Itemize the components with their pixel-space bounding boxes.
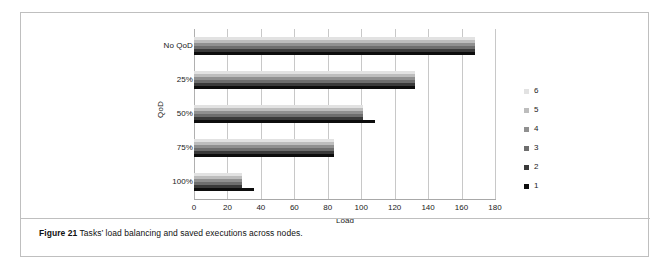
x-axis-tick-label: 100	[346, 203, 376, 212]
legend-swatch-icon	[524, 184, 529, 189]
bar-group	[194, 97, 495, 131]
legend-item[interactable]: 6	[524, 85, 538, 97]
figure-card: QoD No QoD25%50%75%100% 0204060801001201…	[20, 12, 649, 257]
caption-label: Figure 21	[39, 228, 77, 238]
bar	[194, 188, 254, 191]
legend-label: 2	[534, 163, 538, 171]
bars-container	[194, 29, 495, 199]
legend-label: 4	[534, 125, 538, 133]
y-axis-tick-label: 25%	[133, 75, 193, 84]
x-axis-tick-labels: 020406080100120140160180	[141, 203, 561, 217]
caption-text: Figure 21 Tasks’ load balancing and save…	[39, 228, 303, 238]
x-axis-tick-label: 20	[212, 203, 242, 212]
x-axis-tick-label: 140	[413, 203, 443, 212]
y-axis-tick-labels: No QoD25%50%75%100%	[129, 29, 193, 199]
bar-group	[194, 63, 495, 97]
chart-plot-area: QoD No QoD25%50%75%100% 0204060801001201…	[21, 13, 650, 218]
x-axis-tick-label: 120	[380, 203, 410, 212]
bar	[194, 52, 475, 55]
bar-group	[194, 131, 495, 165]
legend-label: 3	[534, 144, 538, 152]
legend-item[interactable]: 5	[524, 104, 538, 116]
legend-item[interactable]: 1	[524, 180, 538, 192]
legend-item[interactable]: 4	[524, 123, 538, 135]
bar	[194, 86, 415, 89]
y-axis-tick-label: No QoD	[133, 41, 193, 50]
x-axis-tick-label: 60	[279, 203, 309, 212]
x-axis-tick-label: 80	[313, 203, 343, 212]
gridline	[495, 29, 496, 199]
x-axis-tick-label: 40	[246, 203, 276, 212]
bar-group	[194, 29, 495, 63]
legend-label: 6	[534, 87, 538, 95]
x-axis-tick-label: 180	[480, 203, 510, 212]
chart-legend: 654321	[524, 85, 564, 201]
x-axis-tick-label: 0	[179, 203, 209, 212]
y-axis-tick-label: 50%	[133, 109, 193, 118]
legend-item[interactable]: 2	[524, 161, 538, 173]
caption-body: Tasks’ load balancing and saved executio…	[77, 228, 302, 238]
y-axis-tick-label: 100%	[133, 177, 193, 186]
bar-group	[194, 165, 495, 199]
legend-swatch-icon	[524, 108, 529, 113]
figure-caption: Figure 21 Tasks’ load balancing and save…	[21, 218, 650, 258]
bar	[194, 120, 375, 123]
legend-swatch-icon	[524, 127, 529, 132]
legend-swatch-icon	[524, 165, 529, 170]
legend-label: 5	[534, 106, 538, 114]
legend-swatch-icon	[524, 146, 529, 151]
x-axis-line	[194, 199, 496, 200]
x-axis-tick-label: 160	[447, 203, 477, 212]
legend-label: 1	[534, 182, 538, 190]
bar	[194, 154, 334, 157]
y-axis-tick-label: 75%	[133, 143, 193, 152]
legend-swatch-icon	[524, 89, 529, 94]
legend-item[interactable]: 3	[524, 142, 538, 154]
